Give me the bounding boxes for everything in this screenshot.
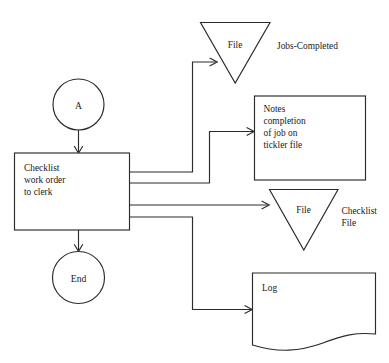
node-file-jobs-completed[interactable]: File Jobs-Completed <box>201 23 339 84</box>
file-jobs-completed-side-label: Jobs-Completed <box>277 41 338 51</box>
terminator-end-label: End <box>71 273 87 284</box>
flowchart-diagram: A Checklist work order to clerk End File… <box>0 0 389 363</box>
file-checklist-side-label-line-2: File <box>342 218 357 228</box>
file-jobs-completed-inner-label: File <box>228 40 243 50</box>
connector-process-to-jobs-completed-file <box>130 58 218 172</box>
connector-process-to-end <box>74 230 83 251</box>
document-log-label: Log <box>262 283 277 293</box>
file-checklist-side-label-line-1: Checklist <box>342 206 378 216</box>
node-file-checklist[interactable]: File Checklist File <box>270 190 378 251</box>
notes-tickler-line-4: tickler file <box>264 140 303 150</box>
file-checklist-triangle[interactable] <box>270 190 339 251</box>
connector-process-to-checklist-file <box>130 201 270 209</box>
process-checklist-line-1: Checklist <box>24 163 60 173</box>
node-process-checklist[interactable]: Checklist work order to clerk <box>15 153 130 230</box>
file-checklist-inner-label: File <box>296 205 311 215</box>
connector-process-to-notes <box>130 128 255 183</box>
flowchart-canvas: A Checklist work order to clerk End File… <box>0 0 389 363</box>
notes-tickler-line-3: of job on <box>264 128 298 138</box>
connector-a-label: A <box>75 100 82 111</box>
node-terminator-end[interactable]: End <box>53 252 105 304</box>
node-connector-a[interactable]: A <box>53 79 104 130</box>
node-notes-tickler[interactable]: Notes completion of job on tickler file <box>255 96 366 180</box>
node-document-log[interactable]: Log <box>253 273 376 350</box>
process-checklist-line-2: work order <box>24 175 66 185</box>
notes-tickler-line-1: Notes <box>264 104 286 114</box>
notes-tickler-line-2: completion <box>264 116 306 126</box>
connector-a-to-process <box>74 130 83 154</box>
file-jobs-completed-triangle[interactable] <box>201 23 271 84</box>
process-checklist-line-3: to clerk <box>24 187 53 197</box>
connector-process-to-log <box>130 217 253 313</box>
